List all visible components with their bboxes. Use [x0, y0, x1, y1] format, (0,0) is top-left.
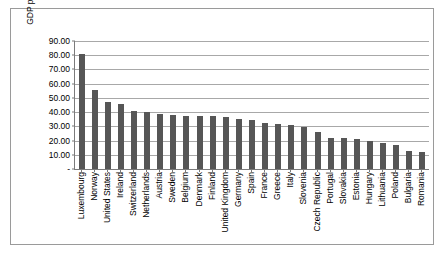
bar[interactable]: [105, 102, 111, 169]
bar[interactable]: [223, 117, 229, 169]
x-axis-label-slot: United States: [100, 172, 113, 250]
x-axis-label-slot: Belgium: [179, 172, 192, 250]
x-axis-label-slot: Greece: [271, 172, 284, 250]
y-axis-tick-label: 30.00: [49, 122, 70, 131]
bar-slot: [337, 41, 350, 169]
bar-slot: [206, 41, 219, 169]
bar-slot: [232, 41, 245, 169]
x-axis-label-slot: United Kingdom: [218, 172, 231, 250]
x-axis-tick-label: Slovenia: [298, 172, 308, 205]
bar-slot: [363, 41, 376, 169]
bar[interactable]: [249, 120, 255, 169]
x-axis-labels: LuxembourgNorwayUnited StatesIrelandSwit…: [74, 172, 428, 250]
bar-slot: [350, 41, 363, 169]
bar-slot: [114, 41, 127, 169]
x-axis-tick-label: Slovakia: [338, 172, 348, 204]
bar[interactable]: [315, 132, 321, 169]
bar[interactable]: [183, 116, 189, 169]
bar-series: [75, 41, 429, 169]
bar[interactable]: [157, 114, 163, 169]
bar[interactable]: [288, 125, 294, 169]
bar-slot: [193, 41, 206, 169]
x-axis-label-slot: Ireland: [113, 172, 126, 250]
y-axis-tick-label: 10.00: [49, 150, 70, 159]
bar[interactable]: [406, 151, 412, 169]
bar-slot: [324, 41, 337, 169]
bar[interactable]: [354, 139, 360, 169]
y-axis-tick-label: 90.00: [49, 37, 70, 46]
bar[interactable]: [197, 116, 203, 169]
y-axis-tick-label: 60.00: [49, 79, 70, 88]
y-axis-tick-label: 70.00: [49, 65, 70, 74]
x-axis-tick-label: Sweden: [167, 172, 177, 203]
bar-slot: [180, 41, 193, 169]
bar[interactable]: [367, 141, 373, 169]
x-axis-label-slot: Czech Republic: [310, 172, 323, 250]
bar-slot: [154, 41, 167, 169]
bar-slot: [403, 41, 416, 169]
x-axis-label-slot: Poland: [389, 172, 402, 250]
plot-area: 90.0080.0070.0060.0050.0040.0030.0020.00…: [74, 41, 429, 170]
x-axis-tick-label: Finland: [207, 172, 217, 200]
bar-slot: [167, 41, 180, 169]
bar[interactable]: [236, 119, 242, 169]
bar[interactable]: [275, 124, 281, 169]
x-axis-tick-label: Denmark: [194, 172, 204, 206]
x-axis-label-slot: France: [258, 172, 271, 250]
chart-frame: GDP per capita – (PPP), $ 90.0080.0070.0…: [10, 8, 434, 245]
bar-slot: [272, 41, 285, 169]
x-axis-tick-label: Germany: [233, 172, 243, 207]
bar[interactable]: [380, 143, 386, 169]
x-axis-label-slot: Spain: [244, 172, 257, 250]
x-axis-label-slot: Austria: [153, 172, 166, 250]
bar[interactable]: [118, 104, 124, 169]
x-axis-label-slot: Slovenia: [297, 172, 310, 250]
x-axis-tick-label: Lithuania: [377, 172, 387, 207]
x-axis-label-slot: Germany: [231, 172, 244, 250]
bar[interactable]: [131, 111, 137, 169]
x-axis-tick-label: United Kingdom: [220, 172, 230, 232]
x-axis-tick-label: Luxembourg: [76, 172, 86, 219]
x-axis-label-slot: Denmark: [192, 172, 205, 250]
bar-slot: [416, 41, 429, 169]
y-axis-tick-label: 80.00: [49, 51, 70, 60]
x-axis-tick-label: Italy: [285, 172, 295, 188]
bar[interactable]: [328, 138, 334, 169]
bar[interactable]: [210, 116, 216, 169]
x-axis-tick-label: Switzerland: [128, 172, 138, 216]
x-axis-label-slot: Lithuania: [376, 172, 389, 250]
x-axis-label-slot: Norway: [87, 172, 100, 250]
bar[interactable]: [301, 127, 307, 169]
bar-slot: [88, 41, 101, 169]
x-axis-label-slot: Luxembourg: [74, 172, 87, 250]
x-axis-tick-label: Austria: [154, 172, 164, 198]
x-axis-tick-label: Norway: [89, 172, 99, 201]
x-axis-label-slot: Estonia: [349, 172, 362, 250]
x-axis-label-slot: Portugal: [323, 172, 336, 250]
bar[interactable]: [419, 152, 425, 169]
bar[interactable]: [341, 138, 347, 169]
bar-slot: [127, 41, 140, 169]
x-axis-label-slot: Italy: [284, 172, 297, 250]
bar[interactable]: [262, 123, 268, 169]
x-axis-tick-label: Ireland: [115, 172, 125, 198]
bar[interactable]: [170, 115, 176, 169]
bar[interactable]: [79, 54, 85, 169]
bar[interactable]: [92, 90, 98, 169]
bar[interactable]: [393, 145, 399, 169]
x-axis-tick-label: Netherlands: [141, 172, 151, 218]
x-axis-tick-label: United States: [102, 172, 112, 223]
y-axis-tick-label: -: [67, 165, 70, 174]
x-axis-label-slot: Slovakia: [336, 172, 349, 250]
x-axis-label-slot: Finland: [205, 172, 218, 250]
x-axis-label-slot: Sweden: [166, 172, 179, 250]
x-axis-tick-label: Czech Republic: [312, 172, 322, 232]
x-axis-label-slot: Hungary: [362, 172, 375, 250]
bar[interactable]: [144, 112, 150, 169]
x-axis-tick-label: Romania: [416, 172, 426, 206]
x-axis-tick-label: Bulgaria: [403, 172, 413, 203]
x-axis-label-slot: Netherlands: [140, 172, 153, 250]
x-axis-tick-label: Estonia: [351, 172, 361, 200]
y-axis-tick-label: 50.00: [49, 93, 70, 102]
bar-slot: [75, 41, 88, 169]
